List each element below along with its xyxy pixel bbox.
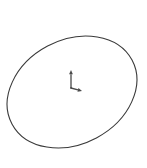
drawing-canvas [0, 0, 147, 168]
axis-origin-point [70, 87, 72, 89]
vector-drawing [0, 0, 147, 168]
canvas-background [0, 0, 147, 168]
